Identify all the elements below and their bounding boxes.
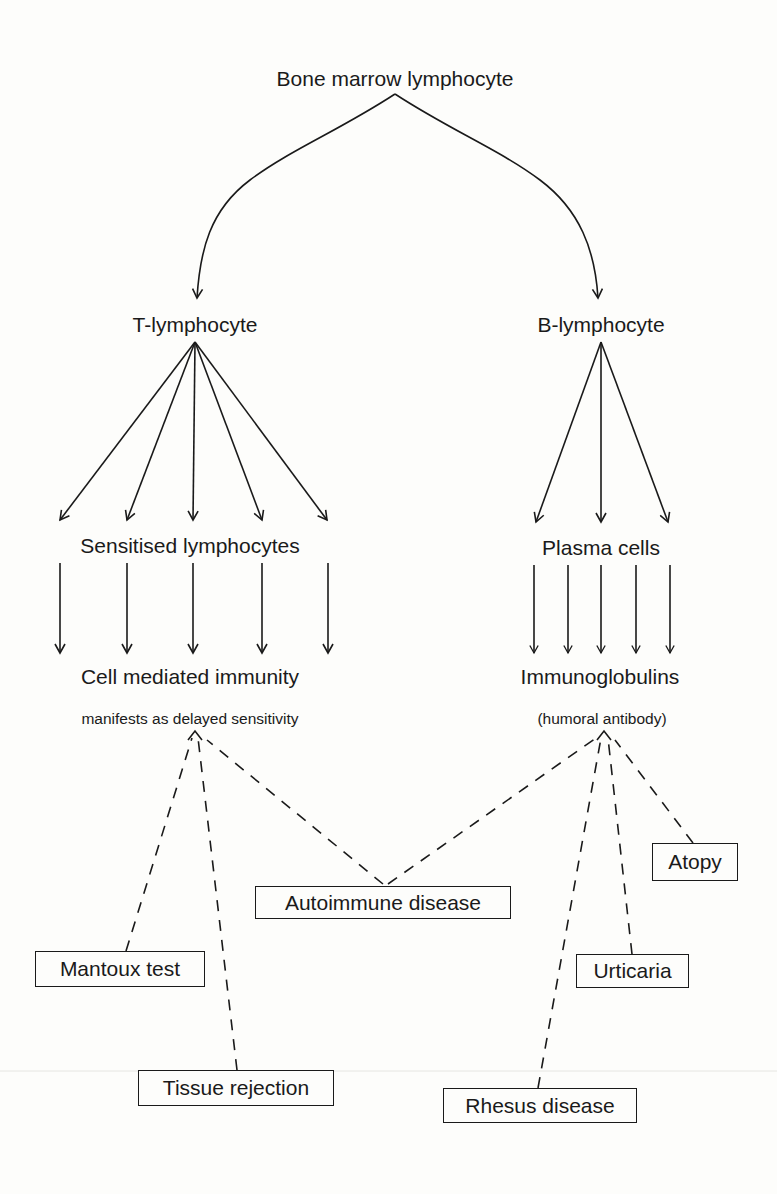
node-bone-marrow-lymphocyte: Bone marrow lymphocyte <box>277 68 514 89</box>
outcome-tissue-rejection: Tissue rejection <box>138 1070 334 1106</box>
edge-atopy-to-ig <box>615 740 693 843</box>
outcome-urticaria: Urticaria <box>576 954 689 988</box>
edges-t-to-sensitised <box>60 342 327 520</box>
connector-lines <box>0 0 777 1194</box>
note-delayed-sensitivity: manifests as delayed sensitivity <box>81 711 298 727</box>
node-immunoglobulins: Immunoglobulins <box>521 666 680 687</box>
edges-plasma-to-ig <box>534 565 670 653</box>
edge-autoimmune-to-cmi <box>207 740 383 884</box>
edge-autoimmune-to-ig <box>388 738 596 884</box>
edge-root-to-b <box>395 94 598 298</box>
edge-mantoux-to-cmi <box>126 738 192 951</box>
outcome-autoimmune-disease: Autoimmune disease <box>255 886 511 919</box>
edges-b-to-plasma <box>536 342 668 522</box>
edge-urticaria-to-ig <box>608 738 632 954</box>
edge-rhesus-to-ig <box>538 738 601 1088</box>
edges-sensitised-to-cmi <box>60 563 328 653</box>
edge-root-to-t <box>197 94 395 298</box>
outcome-rhesus-disease: Rhesus disease <box>443 1088 637 1123</box>
immune-diagram: Bone marrow lymphocyte T-lymphocyte B-ly… <box>0 0 777 1194</box>
node-t-lymphocyte: T-lymphocyte <box>133 314 258 335</box>
node-b-lymphocyte: B-lymphocyte <box>537 314 664 335</box>
apex-arrow-cmi <box>188 731 202 740</box>
note-humoral-antibody: (humoral antibody) <box>537 711 666 727</box>
node-plasma-cells: Plasma cells <box>542 537 660 558</box>
apex-arrow-ig <box>597 731 611 740</box>
node-sensitised-lymphocytes: Sensitised lymphocytes <box>80 535 299 556</box>
edge-tissue-to-cmi <box>198 738 237 1070</box>
node-cell-mediated-immunity: Cell mediated immunity <box>81 666 299 687</box>
outcome-atopy: Atopy <box>652 843 738 881</box>
outcome-mantoux-test: Mantoux test <box>35 951 205 987</box>
